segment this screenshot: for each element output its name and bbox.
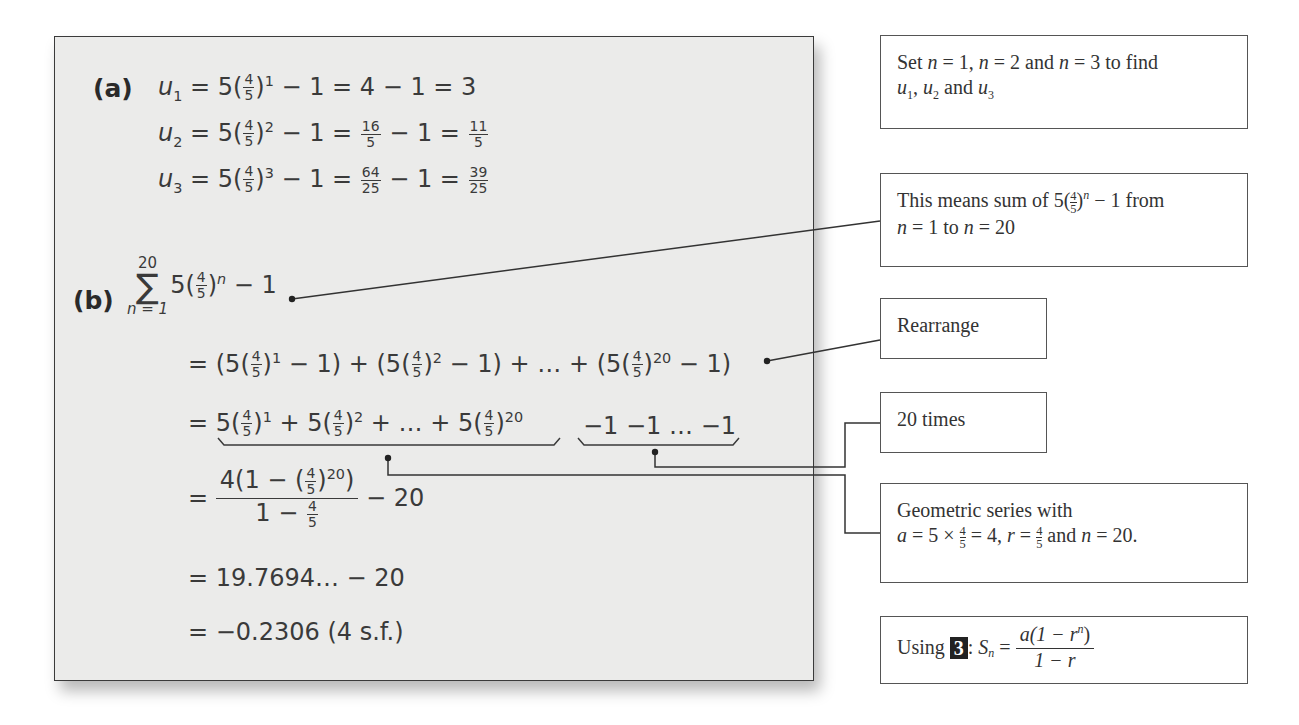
formula-reference-badge: 3 (950, 637, 968, 659)
note-geometric-series: Geometric series with a = 5 × 45 = 4, r … (880, 483, 1248, 583)
expanded-sum-line: = (5(45)1 − 1) + (5(45)2 − 1) + … + (5(4… (188, 349, 731, 379)
u2-line: u2 = 5(45)2 − 1 = 165 − 1 = 115 (158, 118, 489, 149)
note-20-times: 20 times (880, 392, 1047, 453)
part-b-label: (b) (73, 288, 114, 313)
sigma-symbol: 20 ∑ n = 1 (127, 256, 168, 317)
u3-line: u3 = 5(45)3 − 1 = 6425 − 1 = 3925 (158, 164, 489, 195)
minus-ones: −1 −1 … −1 (583, 414, 736, 438)
final-answer: = −0.2306 (4 s.f.) (188, 620, 404, 644)
sum-expression: 20 ∑ n = 1 5(45)n − 1 (127, 256, 277, 317)
u1-line: u1 = 5(45)1 − 1 = 4 − 1 = 3 (158, 72, 476, 103)
geometric-formula-line: = 4(1 − (45)20) 1 − 45 − 20 (188, 466, 424, 529)
note-rearrange: Rearrange (880, 298, 1047, 359)
note-set-n-values: Set n = 1, n = 2 and n = 3 to find u1, u… (880, 35, 1248, 129)
part-a-label: (a) (93, 76, 133, 101)
note-sum-formula: Using 3: Sn = a(1 − rn) 1 − r (880, 616, 1248, 684)
decimal-line: = 19.7694… − 20 (188, 566, 405, 590)
geometric-fraction: 4(1 − (45)20) 1 − 45 (216, 466, 359, 529)
note-sum-meaning: This means sum of 5(45)n − 1 from n = 1 … (880, 173, 1248, 267)
rearranged-line: = 5(45)1 + 5(45)2 + … + 5(45)20 (188, 408, 523, 438)
